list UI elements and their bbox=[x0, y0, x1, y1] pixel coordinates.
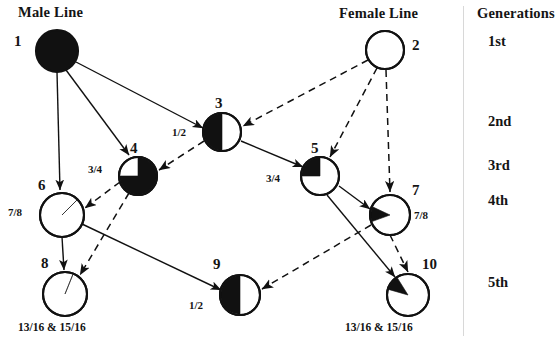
node-number-7: 7 bbox=[412, 182, 420, 199]
generation-label-gen-1: 1st bbox=[488, 33, 506, 50]
node-circle-8[interactable] bbox=[43, 272, 87, 316]
node-number-4: 4 bbox=[130, 140, 138, 157]
inbreeding-coefficient-8: 13/16 & 15/16 bbox=[18, 321, 86, 333]
node-circle-6[interactable] bbox=[40, 193, 84, 237]
node-circle-10[interactable] bbox=[387, 274, 429, 316]
generation-label-gen-3: 3rd bbox=[488, 157, 510, 174]
node-circle-4[interactable] bbox=[119, 157, 157, 195]
inbreeding-coefficient-4: 3/4 bbox=[88, 163, 102, 175]
node-number-2: 2 bbox=[412, 37, 420, 54]
inbreeding-coefficient-10: 13/16 & 15/16 bbox=[345, 321, 413, 333]
header-female-line: Female Line bbox=[339, 5, 418, 22]
node-number-6: 6 bbox=[38, 177, 46, 194]
node-number-10: 10 bbox=[422, 256, 437, 273]
node-number-9: 9 bbox=[213, 256, 221, 273]
node-circle-5[interactable] bbox=[301, 157, 339, 195]
inbreeding-coefficient-9: 1/2 bbox=[189, 299, 203, 311]
inbreeding-coefficient-7: 7/8 bbox=[414, 209, 428, 221]
inbreeding-coefficient-5: 3/4 bbox=[266, 172, 280, 184]
node-circle-2[interactable] bbox=[366, 31, 404, 69]
node-number-1: 1 bbox=[14, 33, 22, 50]
node-number-8: 8 bbox=[41, 255, 49, 272]
node-1-outline bbox=[36, 30, 78, 72]
generations-divider bbox=[463, 6, 464, 336]
generation-label-gen-2: 2nd bbox=[488, 113, 511, 130]
node-9-black-wedge-1 bbox=[221, 276, 240, 315]
node-circle-7[interactable] bbox=[370, 195, 410, 235]
inbreeding-coefficient-3: 1/2 bbox=[172, 126, 186, 138]
generation-label-gen-5: 5th bbox=[488, 274, 508, 291]
node-circle-1[interactable] bbox=[36, 30, 78, 72]
node-number-3: 3 bbox=[215, 95, 223, 112]
inbreeding-coefficient-6: 7/8 bbox=[8, 206, 22, 218]
node-circle-9[interactable] bbox=[220, 275, 260, 315]
header-generations: Generations bbox=[477, 5, 555, 22]
generation-label-gen-4: 4th bbox=[488, 192, 508, 209]
header-male-line: Male Line bbox=[18, 4, 83, 21]
node-3-black-wedge-1 bbox=[204, 114, 222, 151]
node-circle-3[interactable] bbox=[203, 113, 241, 151]
node-number-5: 5 bbox=[311, 140, 319, 157]
